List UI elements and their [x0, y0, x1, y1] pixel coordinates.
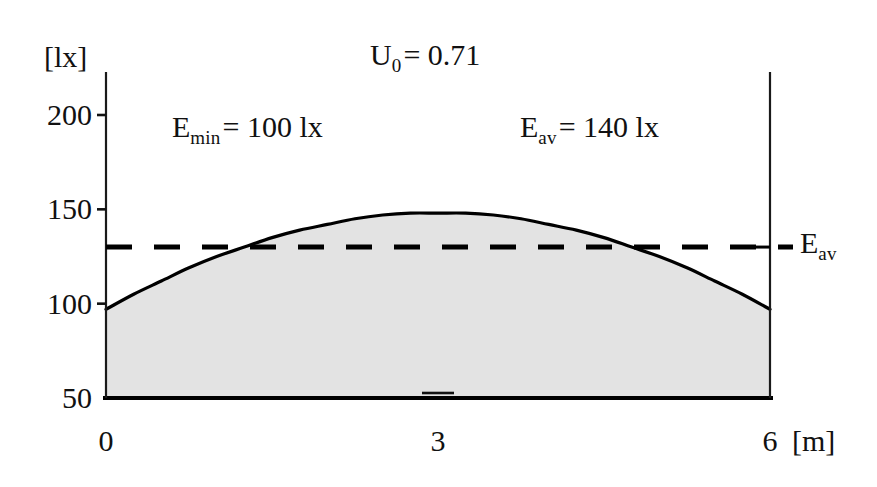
- y-axis-unit-label: [lx]: [44, 42, 87, 72]
- x-tick-label-6: 6: [750, 426, 790, 456]
- y-tick-label-100: 100: [30, 289, 92, 319]
- e-min-annotation: Emin= 100 lx: [172, 112, 325, 142]
- illuminance-chart-figure: [lx] 200 150 100 50 0 3 6 [m] U0= 0.71 E…: [0, 0, 877, 487]
- uniformity-value: = 0.71: [401, 38, 482, 71]
- illuminance-area-fill: [106, 213, 770, 398]
- e-min-value: = 100 lx: [221, 110, 325, 143]
- uniformity-subscript: 0: [392, 55, 402, 76]
- y-axis-ticks: [97, 115, 106, 304]
- chart-plot-area: [0, 0, 877, 487]
- y-tick-label-200: 200: [30, 100, 92, 130]
- uniformity-symbol: U: [370, 38, 392, 71]
- x-tick-label-0: 0: [86, 426, 126, 456]
- e-av-symbol: E: [520, 110, 538, 143]
- e-av-line-label: Eav: [800, 228, 837, 258]
- y-tick-label-50: 50: [30, 383, 92, 413]
- x-axis-unit-label: [m]: [792, 426, 835, 456]
- e-av-annotation: Eav= 140 lx: [520, 112, 661, 142]
- e-min-subscript: min: [190, 127, 220, 148]
- e-av-line-subscript: av: [818, 243, 836, 264]
- e-min-symbol: E: [172, 110, 190, 143]
- e-av-value: = 140 lx: [557, 110, 661, 143]
- x-tick-label-3: 3: [418, 426, 458, 456]
- e-av-line-symbol: E: [800, 226, 818, 259]
- uniformity-annotation: U0= 0.71: [370, 40, 482, 70]
- e-av-subscript: av: [538, 127, 556, 148]
- y-tick-label-150: 150: [30, 194, 92, 224]
